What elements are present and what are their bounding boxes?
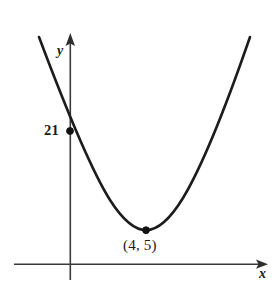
y-axis-label: y <box>57 44 63 58</box>
parabola-figure: y x 21 (4, 5) <box>0 0 279 294</box>
y-intercept-label: 21 <box>44 123 59 138</box>
y-intercept-point <box>67 128 74 135</box>
vertex-point <box>143 227 150 234</box>
y-axis-group <box>66 33 75 280</box>
vertex-label: (4, 5) <box>123 238 157 253</box>
x-axis-label: x <box>259 267 266 281</box>
x-axis-group <box>14 260 268 269</box>
